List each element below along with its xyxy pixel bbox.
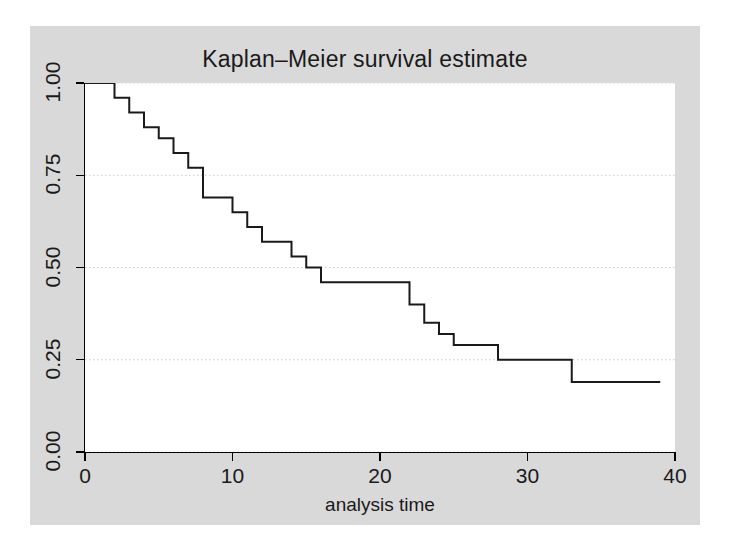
y-axis-tick xyxy=(76,82,84,83)
y-axis-tick xyxy=(76,267,84,268)
survival-curves xyxy=(85,83,660,382)
x-axis-tick-label: 0 xyxy=(55,464,115,488)
survival-step-line xyxy=(85,83,660,382)
y-axis-tick xyxy=(76,359,84,360)
x-axis-tick-label: 20 xyxy=(350,464,410,488)
x-axis-title: analysis time xyxy=(85,494,675,516)
y-axis-tick xyxy=(76,175,84,176)
x-axis-tick-label: 10 xyxy=(203,464,263,488)
x-axis-tick xyxy=(379,453,380,461)
x-axis-tick xyxy=(232,453,233,461)
y-axis-tick-label: 0.00 xyxy=(30,439,74,463)
graph-region: Kaplan–Meier survival estimate 0.000.250… xyxy=(30,26,700,525)
y-axis-tick-label: 1.00 xyxy=(30,70,74,94)
x-axis-tick xyxy=(84,453,85,461)
kaplan-meier-figure: Kaplan–Meier survival estimate 0.000.250… xyxy=(0,0,731,553)
plot-area xyxy=(85,83,675,452)
chart-title: Kaplan–Meier survival estimate xyxy=(30,46,700,73)
survival-curve-svg xyxy=(85,83,675,452)
y-axis-tick-label-text: 0.25 xyxy=(42,338,66,379)
y-axis-tick-label-text: 0.50 xyxy=(42,246,66,287)
y-axis-tick-label-text: 0.75 xyxy=(42,154,66,195)
y-axis-tick-label: 0.50 xyxy=(30,255,74,279)
y-axis-line xyxy=(84,83,85,453)
x-axis-tick-label: 40 xyxy=(645,464,705,488)
x-axis-tick xyxy=(527,453,528,461)
y-axis-tick-label: 0.25 xyxy=(30,347,74,371)
x-axis-tick-label: 30 xyxy=(498,464,558,488)
y-axis-tick xyxy=(76,451,84,452)
x-axis-tick xyxy=(674,453,675,461)
y-axis-tick-label: 0.75 xyxy=(30,162,74,186)
y-axis-tick-label-text: 1.00 xyxy=(42,62,66,103)
